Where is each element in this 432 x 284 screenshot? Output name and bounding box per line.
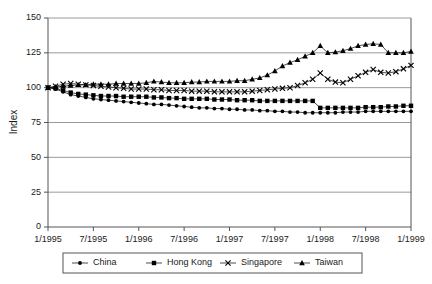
data-point-marker	[68, 90, 72, 94]
y-tick-label: 125	[26, 47, 41, 57]
legend-marker-square	[152, 261, 156, 265]
x-tick-label: 7/1998	[352, 234, 380, 244]
data-point-marker	[121, 95, 125, 99]
data-point-marker	[409, 109, 413, 113]
x-tick-label: 1/1995	[34, 234, 62, 244]
data-point-marker	[363, 105, 367, 109]
data-point-marker	[61, 88, 65, 92]
data-point-marker	[288, 99, 292, 103]
y-tick-label: 25	[31, 187, 41, 197]
x-tick-label: 1/1999	[397, 234, 425, 244]
data-point-marker	[205, 97, 209, 101]
data-point-marker	[280, 99, 284, 103]
data-point-marker	[386, 109, 390, 113]
data-point-marker	[91, 93, 95, 97]
data-point-marker	[311, 111, 315, 115]
data-point-marker	[265, 109, 269, 113]
data-point-marker	[265, 99, 269, 103]
y-tick-label: 50	[31, 152, 41, 162]
data-point-marker	[394, 104, 398, 108]
legend-label: China	[93, 257, 117, 267]
data-point-marker	[197, 106, 201, 110]
data-point-marker	[197, 97, 201, 101]
data-point-marker	[258, 109, 262, 113]
data-point-marker	[379, 109, 383, 113]
data-point-marker	[273, 99, 277, 103]
data-point-marker	[348, 106, 352, 110]
data-point-marker	[318, 106, 322, 110]
x-tick-label: 7/1996	[170, 234, 198, 244]
data-point-marker	[341, 106, 345, 110]
data-point-marker	[152, 95, 156, 99]
data-point-marker	[303, 99, 307, 103]
data-point-marker	[303, 111, 307, 115]
data-point-marker	[333, 111, 337, 115]
data-point-marker	[205, 106, 209, 110]
data-point-marker	[144, 95, 148, 99]
data-point-marker	[159, 95, 163, 99]
data-point-marker	[349, 110, 353, 114]
data-point-marker	[129, 100, 133, 104]
data-point-marker	[106, 94, 110, 98]
data-point-marker	[250, 98, 254, 102]
data-point-marker	[310, 99, 314, 103]
data-point-marker	[296, 110, 300, 114]
x-tick-label: 1/1996	[125, 234, 153, 244]
data-point-marker	[273, 109, 277, 113]
data-point-marker	[227, 97, 231, 101]
x-tick-label: 7/1997	[261, 234, 289, 244]
y-tick-label: 75	[31, 117, 41, 127]
data-point-marker	[212, 97, 216, 101]
data-point-marker	[242, 98, 246, 102]
data-point-marker	[386, 104, 390, 108]
data-point-marker	[326, 106, 330, 110]
y-tick-label: 100	[26, 82, 41, 92]
data-point-marker	[129, 95, 133, 99]
data-point-marker	[114, 99, 118, 103]
data-point-marker	[379, 105, 383, 109]
x-tick-label: 1/1997	[216, 234, 244, 244]
data-point-marker	[394, 109, 398, 113]
data-point-marker	[295, 99, 299, 103]
data-point-marker	[243, 108, 247, 112]
data-point-marker	[175, 104, 179, 108]
data-point-marker	[356, 106, 360, 110]
y-tick-label: 0	[36, 221, 41, 231]
data-point-marker	[333, 106, 337, 110]
data-point-marker	[76, 92, 80, 96]
y-axis: 0255075100125150	[26, 12, 48, 231]
data-point-marker	[326, 111, 330, 115]
legend-label: Hong Kong	[167, 257, 212, 267]
y-tick-label: 150	[26, 12, 41, 22]
data-point-marker	[402, 109, 406, 113]
data-point-marker	[318, 111, 322, 115]
data-point-marker	[228, 107, 232, 111]
data-point-marker	[356, 110, 360, 114]
data-point-marker	[371, 109, 375, 113]
legend-label: Taiwan	[315, 257, 343, 267]
data-point-marker	[288, 110, 292, 114]
data-point-marker	[220, 97, 224, 101]
data-point-marker	[167, 96, 171, 100]
data-point-marker	[182, 105, 186, 109]
data-point-marker	[250, 108, 254, 112]
data-point-marker	[220, 107, 224, 111]
data-point-marker	[401, 104, 405, 108]
x-tick-label: 1/1998	[306, 234, 334, 244]
data-point-marker	[167, 103, 171, 107]
data-point-marker	[371, 105, 375, 109]
chart-figure: 0255075100125150 1/19957/19951/19967/199…	[0, 0, 432, 284]
data-point-marker	[212, 107, 216, 111]
x-axis: 1/19957/19951/19967/19961/19977/19971/19…	[34, 227, 425, 244]
data-point-marker	[182, 97, 186, 101]
data-point-marker	[84, 92, 88, 96]
data-point-marker	[99, 94, 103, 98]
x-tick-label: 7/1995	[80, 234, 108, 244]
data-point-marker	[189, 97, 193, 101]
data-point-marker	[281, 109, 285, 113]
line-chart-svg: 0255075100125150 1/19957/19951/19967/199…	[0, 0, 432, 284]
data-point-marker	[190, 105, 194, 109]
data-point-marker	[122, 100, 126, 104]
data-point-marker	[137, 101, 141, 105]
data-point-marker	[174, 96, 178, 100]
